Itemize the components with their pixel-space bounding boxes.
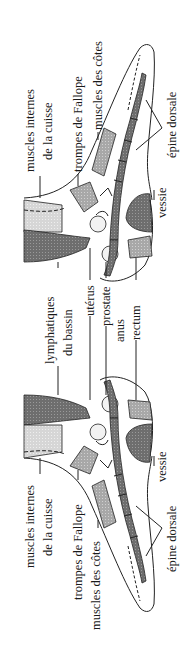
bottom-thigh-muscles-label-1: muscles internes <box>23 485 37 568</box>
top-rib-muscles-region <box>92 128 116 176</box>
top-femur-head <box>90 216 106 232</box>
top-fallopian-label: trompes de Fallope <box>71 76 85 172</box>
bottom-bladder <box>126 424 152 462</box>
bottom-thigh-muscles-region <box>24 425 62 458</box>
bottom-spine-label: épine dorsale <box>165 505 179 572</box>
bottom-fallopian-region <box>70 446 98 474</box>
bottom-rib-muscles-label: muscles des côtes <box>89 541 103 630</box>
top-bladder <box>126 194 152 232</box>
top-thigh-muscles-label-2: de la cuisse <box>41 102 55 160</box>
diagram-canvas: muscles internes de la cuisse trompes de… <box>0 0 188 657</box>
top-fallopian-region <box>70 182 98 212</box>
bottom-thigh-muscles-label-2: de la cuisse <box>41 498 55 556</box>
bottom-bladder-label: vessie <box>155 451 169 482</box>
top-thigh-muscles-region <box>24 200 62 232</box>
pelvic-lymph-label-2: du bassin <box>61 308 75 356</box>
top-rectum <box>128 236 152 258</box>
top-pelvic-lymph-band <box>24 230 90 262</box>
bottom-rib-muscles-region <box>92 480 116 528</box>
top-thigh-muscles-label-1: muscles internes <box>23 89 37 172</box>
top-bladder-label: vessie <box>155 187 169 218</box>
prostate-label: prostate <box>99 286 113 326</box>
bottom-rectum <box>128 400 152 420</box>
bottom-pelvic-lymph-band <box>24 395 90 425</box>
top-spine-label: épine dorsale <box>165 91 179 158</box>
anus-label: anus <box>113 319 127 342</box>
anatomy-diagram: muscles internes de la cuisse trompes de… <box>0 0 188 657</box>
bottom-femur-head <box>90 424 106 440</box>
rectum-label: rectum <box>129 305 143 340</box>
uterus-label: utérus <box>83 285 97 316</box>
bottom-fallopian-label: trompes de Fallope <box>71 504 85 600</box>
top-rib-muscles-label: muscles des côtes <box>91 41 105 130</box>
pelvic-lymph-label-1: lymphatiques <box>43 297 57 364</box>
